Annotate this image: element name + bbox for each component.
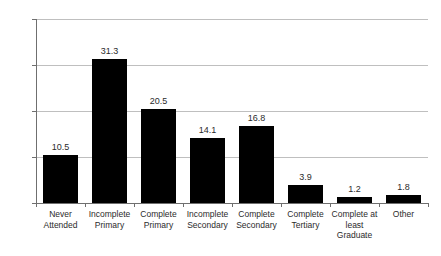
bar-value-label: 3.9 <box>286 173 326 182</box>
bar-value-label: 20.5 <box>139 97 179 106</box>
x-tick-mark <box>330 203 331 207</box>
bar-value-label: 31.3 <box>90 47 130 56</box>
y-axis-line <box>36 19 37 204</box>
y-tick-mark-30 <box>32 65 36 66</box>
x-tick-mark <box>85 203 86 207</box>
bar-value-label: 16.8 <box>237 114 277 123</box>
x-tick-mark <box>134 203 135 207</box>
bar <box>239 126 274 203</box>
x-axis-label: Other <box>374 209 434 220</box>
gridline-40 <box>36 19 428 20</box>
bar <box>386 195 421 203</box>
bar-value-label: 10.5 <box>41 143 81 152</box>
bar <box>190 138 225 203</box>
bar <box>141 109 176 203</box>
y-tick-mark-10 <box>32 157 36 158</box>
bar-value-label: 14.1 <box>188 126 228 135</box>
y-axis-tick-labels: 010203040 <box>0 0 30 256</box>
x-tick-mark <box>232 203 233 207</box>
bar-value-label: 1.8 <box>384 183 424 192</box>
x-tick-mark <box>428 203 429 207</box>
bar-value-label: 1.2 <box>335 185 375 194</box>
bar <box>92 59 127 203</box>
x-tick-mark <box>36 203 37 207</box>
bar-chart: 010203040 10.531.320.514.116.83.91.21.8 … <box>0 0 441 256</box>
bar <box>288 185 323 203</box>
x-tick-mark <box>183 203 184 207</box>
y-tick-mark-40 <box>32 19 36 20</box>
y-tick-mark-20 <box>32 111 36 112</box>
x-tick-mark <box>379 203 380 207</box>
bar <box>43 155 78 203</box>
x-tick-mark <box>281 203 282 207</box>
